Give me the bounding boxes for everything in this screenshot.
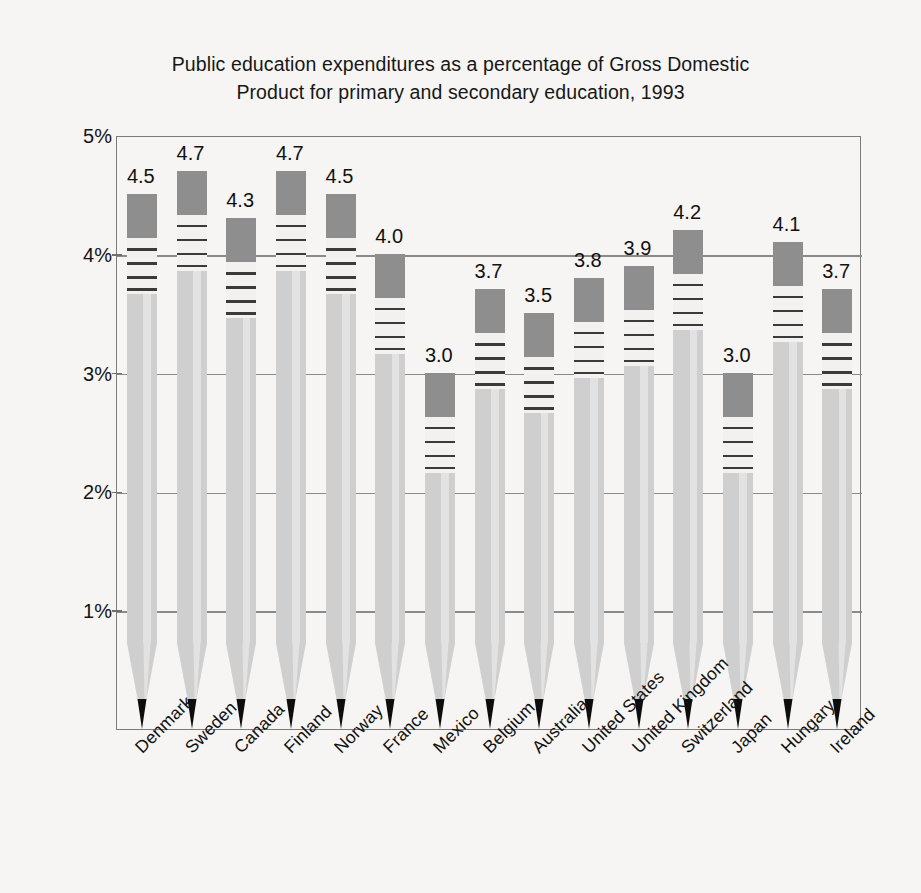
pencil-ferrule-band <box>773 310 803 312</box>
bar-value-label: 3.7 <box>801 260 871 283</box>
pencil-body <box>574 378 604 643</box>
bar-pencil[interactable] <box>326 194 356 729</box>
pencil-ferrule-band <box>723 455 753 457</box>
pencil-ferrule-band <box>574 332 604 334</box>
pencil-ferrule <box>326 238 356 294</box>
pencil-ferrule-band <box>375 348 405 350</box>
bar-value-label: 4.1 <box>752 213 822 236</box>
pencil-ferrule-band <box>524 407 554 409</box>
pencil-body <box>425 473 455 643</box>
pencil-ferrule-band <box>822 371 852 373</box>
pencil-body <box>276 271 306 643</box>
pencil-ferrule-band <box>226 300 256 302</box>
bar-value-label: 4.3 <box>205 189 275 212</box>
pencil-ferrule-band <box>673 298 703 300</box>
pencil-ferrule-band <box>226 312 256 314</box>
pencil-ferrule-band <box>177 265 207 267</box>
pencil-ferrule-band <box>773 296 803 298</box>
pencil-eraser <box>524 313 554 357</box>
pencil-body <box>822 389 852 643</box>
pencil-body <box>177 271 207 643</box>
pencil-ferrule-band <box>375 336 405 338</box>
pencil-ferrule-band <box>127 262 157 264</box>
pencil-ferrule-band <box>375 322 405 324</box>
bar-pencil[interactable] <box>524 313 554 729</box>
pencil-ferrule <box>127 238 157 294</box>
pencil-ferrule <box>773 286 803 342</box>
pencil-eraser <box>375 254 405 298</box>
pencil-eraser <box>673 230 703 274</box>
bar-pencil[interactable] <box>127 194 157 729</box>
bar-pencil[interactable] <box>226 218 256 729</box>
pencil-ferrule-band <box>177 239 207 241</box>
chart-container: Public education expenditures as a perce… <box>0 0 921 893</box>
pencil-ferrule-band <box>425 455 455 457</box>
pencil-ferrule-band <box>375 308 405 310</box>
bar-pencil[interactable] <box>475 289 505 729</box>
y-axis-tick-label: 4% <box>64 243 112 266</box>
pencil-ferrule-band <box>127 276 157 278</box>
pencil-ferrule-band <box>624 320 654 322</box>
y-axis-tick-label: 3% <box>64 362 112 385</box>
bar-pencil[interactable] <box>425 373 455 729</box>
bar-pencil[interactable] <box>723 373 753 729</box>
pencil-ferrule-band <box>276 265 306 267</box>
pencil-eraser <box>475 289 505 333</box>
pencil-ferrule-band <box>624 360 654 362</box>
pencil-ferrule <box>276 215 306 271</box>
bar-pencil[interactable] <box>375 254 405 729</box>
pencil-body <box>673 330 703 643</box>
pencil-ferrule-band <box>326 276 356 278</box>
bar-pencil[interactable] <box>822 289 852 729</box>
pencil-ferrule <box>425 417 455 473</box>
pencil-ferrule-band <box>425 427 455 429</box>
pencil-eraser <box>127 194 157 238</box>
bar-pencil[interactable] <box>574 278 604 729</box>
bar-value-label: 4.2 <box>652 201 722 224</box>
pencil-ferrule-band <box>773 324 803 326</box>
bar-value-label: 4.5 <box>106 165 176 188</box>
pencil-body <box>524 413 554 643</box>
bar-pencil[interactable] <box>276 171 306 729</box>
y-axis-tick-label: 5% <box>64 125 112 148</box>
pencil-ferrule-band <box>177 253 207 255</box>
pencil-eraser <box>574 278 604 322</box>
y-axis-tick-mark <box>112 254 122 256</box>
pencil-body <box>226 318 256 643</box>
pencil-ferrule-band <box>524 395 554 397</box>
pencil-ferrule-band <box>475 357 505 359</box>
pencil-body <box>475 389 505 643</box>
pencil-ferrule-band <box>127 288 157 290</box>
pencil-ferrule-band <box>574 372 604 374</box>
pencil-eraser <box>226 218 256 262</box>
y-axis-tick-mark <box>112 610 122 612</box>
pencil-ferrule-band <box>574 346 604 348</box>
pencil-ferrule <box>574 322 604 378</box>
pencil-ferrule <box>723 417 753 473</box>
pencil-ferrule <box>673 274 703 330</box>
pencil-ferrule-band <box>822 357 852 359</box>
bar-pencil[interactable] <box>773 242 803 729</box>
bar-value-label: 4.7 <box>156 142 226 165</box>
bar-pencil[interactable] <box>177 171 207 729</box>
bar-pencil[interactable] <box>673 230 703 729</box>
pencil-ferrule-band <box>624 334 654 336</box>
pencil-ferrule-band <box>723 427 753 429</box>
pencil-tip <box>773 643 803 729</box>
pencil-ferrule-band <box>574 360 604 362</box>
pencil-body <box>773 342 803 643</box>
pencil-ferrule-band <box>326 262 356 264</box>
pencil-ferrule-band <box>127 248 157 250</box>
pencil-ferrule-band <box>524 381 554 383</box>
pencil-body <box>127 294 157 643</box>
pencil-ferrule-band <box>624 348 654 350</box>
pencil-ferrule-band <box>425 441 455 443</box>
pencil-eraser <box>425 373 455 417</box>
pencil-ferrule <box>177 215 207 271</box>
pencil-eraser <box>723 373 753 417</box>
pencil-eraser <box>276 171 306 215</box>
bar-pencil[interactable] <box>624 266 654 729</box>
pencil-ferrule-band <box>475 383 505 385</box>
pencil-eraser <box>177 171 207 215</box>
pencil-ferrule <box>375 298 405 354</box>
